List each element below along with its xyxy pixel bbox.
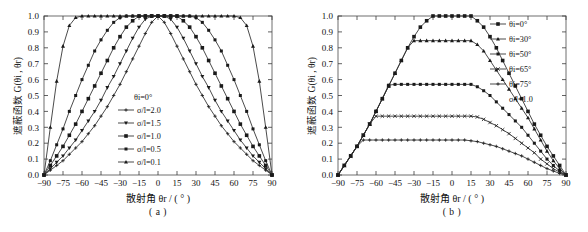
legend-note: σ/l=1.0 (509, 95, 533, 104)
data-marker (106, 29, 109, 32)
data-marker (539, 150, 542, 153)
data-marker (87, 97, 91, 101)
data-marker (220, 49, 223, 52)
data-marker (463, 83, 466, 86)
y-tick-label: 0.2 (28, 138, 39, 148)
x-tick-label: 45 (211, 178, 221, 188)
legend-item-label: θi=75° (509, 80, 531, 89)
data-marker (245, 133, 249, 137)
data-marker (412, 35, 416, 39)
data-marker (214, 38, 217, 41)
data-marker (245, 110, 248, 113)
data-marker (431, 14, 435, 18)
data-marker (201, 46, 205, 50)
y-tick-label: 0.1 (28, 154, 39, 164)
data-marker (482, 25, 486, 29)
data-marker (539, 133, 543, 137)
x-tick-label: 75 (249, 178, 259, 188)
data-marker (68, 110, 71, 113)
data-marker (476, 85, 479, 88)
x-tick-label: −45 (388, 178, 403, 188)
data-marker (470, 83, 473, 86)
x-tick-label: −60 (369, 178, 384, 188)
data-marker (232, 110, 236, 114)
legend-item-label: σ/l=2.0 (137, 106, 161, 115)
legend-item-label: θi=30° (509, 35, 531, 44)
y-tick-label: 0.8 (322, 43, 334, 53)
data-marker (482, 89, 485, 92)
x-tick-label: 15 (467, 178, 477, 188)
y-tick-label: 1.0 (322, 11, 334, 21)
x-tick-label: −75 (56, 178, 71, 188)
x-tick-label: 90 (268, 178, 278, 188)
panel-a-caption: ( a ) (44, 207, 272, 217)
data-marker (425, 19, 429, 23)
x-tick-label: −90 (331, 178, 346, 188)
x-tick-label: 15 (173, 178, 183, 188)
data-marker (252, 127, 255, 130)
data-marker (182, 19, 186, 23)
legend-item-label: θi=65° (509, 65, 531, 74)
x-tick-label: −90 (37, 178, 52, 188)
data-marker (546, 158, 549, 161)
x-tick-label: −45 (94, 178, 109, 188)
data-marker (112, 21, 115, 24)
data-marker (419, 83, 422, 86)
data-marker (220, 84, 224, 88)
data-marker (533, 142, 536, 145)
data-marker (55, 154, 59, 158)
data-marker (457, 14, 461, 18)
data-marker (61, 145, 65, 149)
data-marker (226, 97, 230, 101)
data-marker (93, 84, 97, 88)
data-marker (62, 127, 65, 130)
data-marker (258, 154, 262, 158)
legend-item-label: σ/l=0.1 (137, 158, 161, 167)
data-marker (81, 78, 84, 81)
data-marker (489, 94, 492, 97)
data-marker (226, 64, 229, 67)
y-tick-label: 0.4 (322, 107, 334, 117)
data-marker (496, 22, 500, 26)
data-marker (99, 71, 103, 75)
data-marker (450, 14, 454, 18)
data-marker (80, 110, 84, 114)
data-marker (375, 110, 378, 113)
y-tick-label: 0.0 (28, 170, 40, 180)
panel-b-ylabel: 遮蔽函数 G(θi , θr) (304, 16, 318, 176)
data-marker (545, 145, 549, 149)
data-marker (497, 53, 500, 56)
data-marker (387, 84, 390, 87)
x-tick-label: −30 (407, 178, 422, 188)
data-marker (74, 122, 78, 126)
data-marker (419, 25, 423, 29)
data-marker (239, 94, 242, 97)
x-tick-label: 30 (486, 178, 496, 188)
x-tick-label: 90 (562, 178, 572, 188)
legend-item-label: σ/l=0.5 (137, 145, 161, 154)
data-marker (406, 83, 409, 86)
data-marker (49, 159, 52, 162)
data-marker (438, 14, 442, 18)
data-marker (469, 14, 473, 18)
y-tick-label: 0.9 (322, 27, 334, 37)
data-marker (451, 83, 454, 86)
figure-container: −90−75−60−45−30−1501530456075900.00.10.2… (0, 0, 588, 232)
x-tick-label: 60 (230, 178, 240, 188)
legend-item-label: θi=50° (509, 50, 531, 59)
x-tick-label: 30 (192, 178, 202, 188)
data-marker (457, 83, 460, 86)
data-marker (239, 122, 243, 126)
x-tick-label: 0 (450, 178, 455, 188)
data-marker (526, 110, 530, 114)
data-marker (495, 100, 498, 103)
y-tick-label: 0.4 (28, 107, 40, 117)
data-marker (495, 46, 499, 50)
y-tick-label: 0.5 (322, 91, 334, 101)
data-marker (201, 21, 204, 24)
data-marker (514, 119, 517, 122)
x-tick-label: −30 (113, 178, 128, 188)
data-marker (381, 97, 384, 100)
data-marker (124, 134, 128, 138)
data-marker (194, 35, 198, 39)
